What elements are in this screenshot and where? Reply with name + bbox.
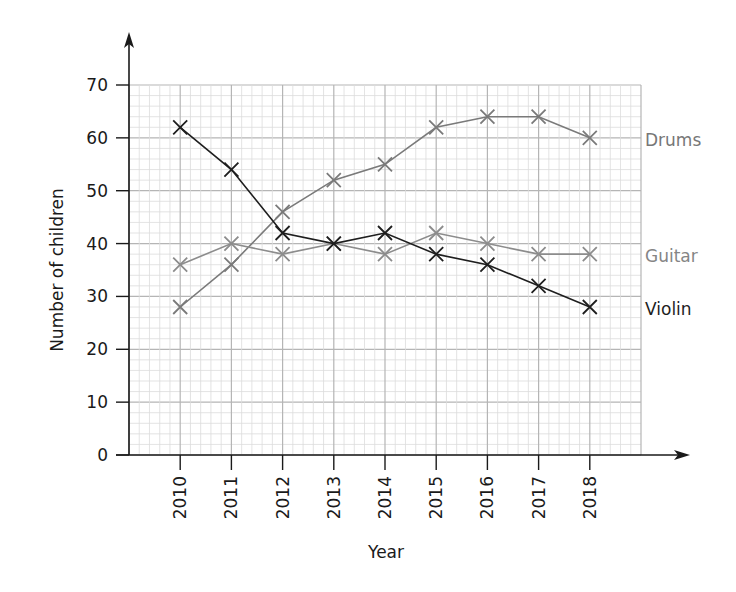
series-label-guitar: Guitar [645, 246, 698, 266]
y-axis-ticks: 010203040506070 [86, 75, 129, 465]
x-tick-label: 2013 [324, 476, 344, 519]
y-tick-label: 40 [86, 234, 108, 254]
y-tick-label: 50 [86, 181, 108, 201]
series-label-violin: Violin [645, 299, 692, 319]
y-tick-label: 70 [86, 75, 108, 95]
x-tick-label: 2010 [170, 476, 190, 519]
x-tick-label: 2012 [273, 476, 293, 519]
series-label-drums: Drums [645, 130, 701, 150]
y-tick-label: 20 [86, 339, 108, 359]
x-tick-label: 2016 [477, 476, 497, 519]
y-tick-label: 60 [86, 128, 108, 148]
y-tick-label: 0 [97, 445, 108, 465]
grid [129, 85, 641, 455]
x-tick-label: 2018 [580, 476, 600, 519]
line-chart: 010203040506070 201020112012201320142015… [0, 0, 736, 592]
x-tick-label: 2014 [375, 476, 395, 519]
y-tick-label: 30 [86, 286, 108, 306]
y-tick-label: 10 [86, 392, 108, 412]
x-tick-label: 2017 [529, 476, 549, 519]
x-axis-title: Year [367, 542, 404, 562]
x-tick-label: 2015 [426, 476, 446, 519]
x-tick-label: 2011 [221, 476, 241, 519]
x-axis-ticks: 201020112012201320142015201620172018 [170, 455, 600, 519]
y-axis-title: Number of children [47, 188, 67, 352]
